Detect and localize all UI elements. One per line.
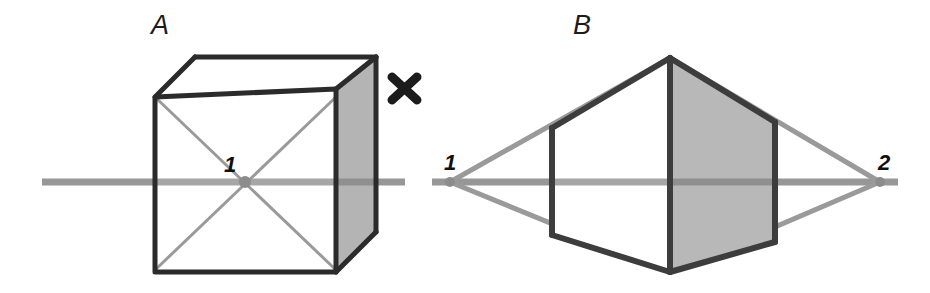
figure-canvas: 1 A	[0, 0, 930, 293]
vanishing-point-dot-b-left	[445, 177, 455, 187]
panel-a: 1 A	[42, 10, 417, 272]
panel-label-a: A	[149, 10, 169, 40]
x-mark-icon	[392, 77, 417, 100]
vanishing-point-dot-a	[239, 176, 251, 188]
vanishing-point-dot-b-right	[875, 177, 885, 187]
vanishing-point-label-a: 1	[224, 152, 236, 177]
panel-b: 1 2 B	[432, 10, 898, 272]
vanishing-point-label-b-left: 1	[444, 150, 456, 175]
vanishing-point-label-b-right: 2	[877, 150, 891, 175]
panel-label-b: B	[573, 10, 591, 40]
perspective-figure: 1 A	[0, 0, 930, 293]
